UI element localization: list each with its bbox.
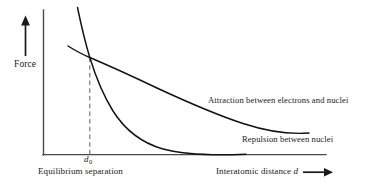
up-arrow-icon [21, 16, 30, 57]
repulsion-curve [78, 8, 247, 155]
attraction-curve-label: Attraction between electrons and nuclei [208, 96, 348, 105]
figure-canvas [0, 0, 384, 184]
repulsion-curve-label: Repulsion between nuclei [242, 135, 333, 144]
equilibrium-separation-tick-label: d0 [84, 155, 92, 164]
x-axis-label: Interatomic distance d [216, 167, 298, 176]
x-axis-label-symbol: d [291, 166, 298, 176]
attraction-curve [68, 46, 309, 133]
right-arrow-icon [303, 168, 333, 176]
d0-subscript: 0 [89, 158, 92, 165]
x-axis-label-text: Interatomic distance [216, 166, 291, 176]
d0-symbol: d [84, 154, 89, 164]
y-axis-label: Force [14, 60, 36, 70]
equilibrium-separation-caption: Equilibrium separation [38, 167, 123, 176]
force-vs-interatomic-distance-figure: Force Attraction between electrons and n… [0, 0, 384, 184]
